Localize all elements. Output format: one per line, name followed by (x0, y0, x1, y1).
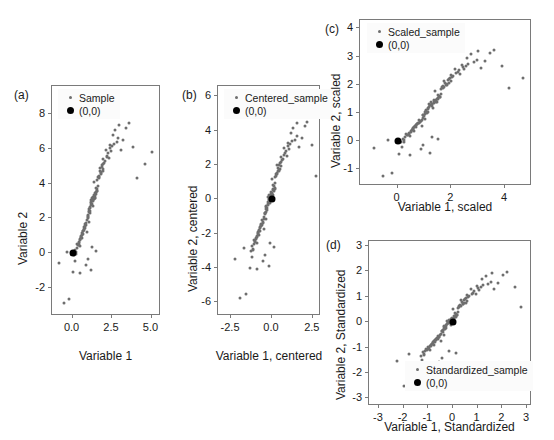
data-point (440, 92, 443, 95)
data-point (294, 138, 297, 141)
plot-frame: Standardized_sample(0,0) (368, 240, 531, 405)
data-point (85, 221, 88, 224)
data-point (470, 292, 473, 295)
legend-marker-icon (61, 107, 79, 114)
legend-entry: Scaled_sample (370, 25, 460, 38)
data-point (457, 69, 460, 72)
y-tick-label: 4 (21, 177, 45, 189)
legend: Centered_sample(0,0) (224, 89, 333, 119)
x-tick-mark (403, 405, 404, 408)
y-tick-label: 2 (187, 158, 211, 170)
origin-marker (268, 196, 275, 203)
data-point (475, 58, 478, 61)
legend-label: Centered_sample (245, 92, 328, 104)
data-point (86, 257, 89, 260)
y-tick-mark (365, 245, 368, 246)
data-point (431, 102, 434, 105)
data-point (296, 122, 299, 125)
data-point (87, 211, 90, 214)
data-point (86, 214, 89, 217)
data-point (445, 324, 448, 327)
y-tick-label: 4 (187, 124, 211, 136)
y-axis-label: Variable 2 (16, 212, 30, 265)
data-point (285, 154, 288, 157)
data-point (122, 139, 125, 142)
data-point (311, 143, 314, 146)
y-tick-mark (48, 252, 51, 253)
data-point (427, 108, 430, 111)
data-point (464, 64, 467, 67)
data-point (422, 143, 425, 146)
data-point (521, 76, 524, 79)
data-point (300, 136, 303, 139)
data-point (497, 281, 500, 284)
data-point (262, 218, 265, 221)
data-point (400, 145, 403, 148)
data-point (77, 243, 80, 246)
data-point (433, 339, 436, 342)
data-point (306, 120, 309, 123)
x-tick-mark (378, 405, 379, 408)
data-point (298, 146, 301, 149)
y-tick-label: 3 (329, 50, 353, 62)
x-tick-label: 0.0 (263, 321, 278, 333)
y-tick-mark (365, 270, 368, 271)
legend-marker-icon (370, 30, 388, 33)
legend-marker-icon (61, 96, 79, 99)
legend-entry: (0,0) (408, 376, 528, 389)
data-point (454, 351, 457, 354)
x-axis-label: Variable 1 (51, 349, 160, 363)
data-point (267, 264, 270, 267)
y-tick-mark (214, 301, 217, 302)
y-tick-mark (365, 397, 368, 398)
legend-label: (0,0) (79, 105, 101, 117)
data-point (101, 170, 104, 173)
data-point (448, 349, 451, 352)
data-point (439, 334, 442, 337)
data-point (423, 354, 426, 357)
data-point (373, 146, 376, 149)
data-point (403, 140, 406, 143)
y-axis-label: Variable 2, Standardized (334, 269, 348, 400)
data-point (442, 85, 445, 88)
data-point (79, 238, 82, 241)
plot-area (218, 86, 319, 314)
data-point (239, 297, 242, 300)
y-tick-mark (48, 217, 51, 218)
x-tick-mark (271, 315, 272, 318)
legend-entry: Standardized_sample (408, 363, 528, 376)
data-point (414, 124, 417, 127)
data-point (489, 280, 492, 283)
legend-entry: Sample (61, 91, 115, 104)
data-point (424, 117, 427, 120)
data-point (387, 138, 390, 141)
x-tick-mark (450, 185, 451, 188)
data-point (263, 253, 266, 256)
data-point (81, 229, 84, 232)
data-point (434, 89, 437, 92)
legend-label: Sample (79, 92, 115, 104)
data-point (428, 151, 431, 154)
legend: Scaled_sample(0,0) (367, 23, 465, 53)
data-point (272, 184, 275, 187)
origin-marker (394, 137, 401, 144)
y-tick-mark (356, 112, 359, 113)
data-point (255, 268, 258, 271)
data-point (437, 138, 440, 141)
legend-entry: (0,0) (370, 38, 460, 51)
data-point (519, 306, 522, 309)
data-point (262, 259, 265, 262)
data-point (91, 246, 94, 249)
data-point (434, 100, 437, 103)
data-point (411, 127, 414, 130)
legend: Standardized_sample(0,0) (405, 361, 533, 391)
data-point (256, 234, 259, 237)
data-point (292, 126, 295, 129)
x-tick-mark (230, 315, 231, 318)
y-tick-label: -6 (187, 295, 211, 307)
data-point (303, 124, 306, 127)
origin-marker (449, 319, 456, 326)
y-tick-label: 6 (187, 89, 211, 101)
data-point (451, 76, 454, 79)
data-point (426, 348, 429, 351)
